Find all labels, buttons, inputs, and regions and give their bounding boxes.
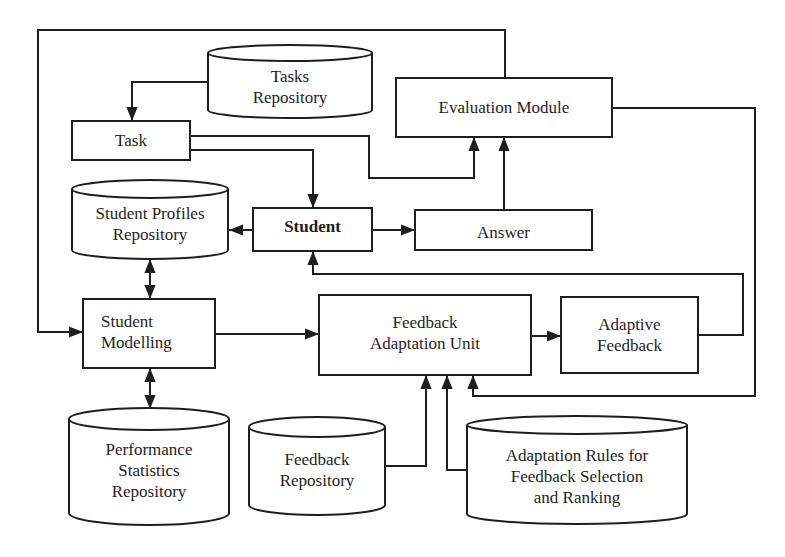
diagram-canvas [0,0,785,557]
answer-box [415,210,592,250]
performance-statistics-repository-cylinder [69,408,229,525]
tasks-repository-cylinder [208,45,372,118]
edge-rules-to-fau [447,375,466,470]
student-box [253,208,372,251]
feedback-adaptation-unit-box [319,295,531,375]
edge-feedback-repo-to-fau [384,375,426,466]
task-box [72,121,190,160]
student-profiles-repository-cylinder [72,180,228,259]
feedback-repository-cylinder [249,417,385,515]
edge-tasks-repository-to-task [132,82,208,121]
student-modelling-box [83,299,215,368]
evaluation-module-box [396,78,612,137]
adaptation-rules-cylinder [467,416,687,524]
edge-task-to-evaluation [190,136,474,178]
adaptive-feedback-box [561,297,698,373]
